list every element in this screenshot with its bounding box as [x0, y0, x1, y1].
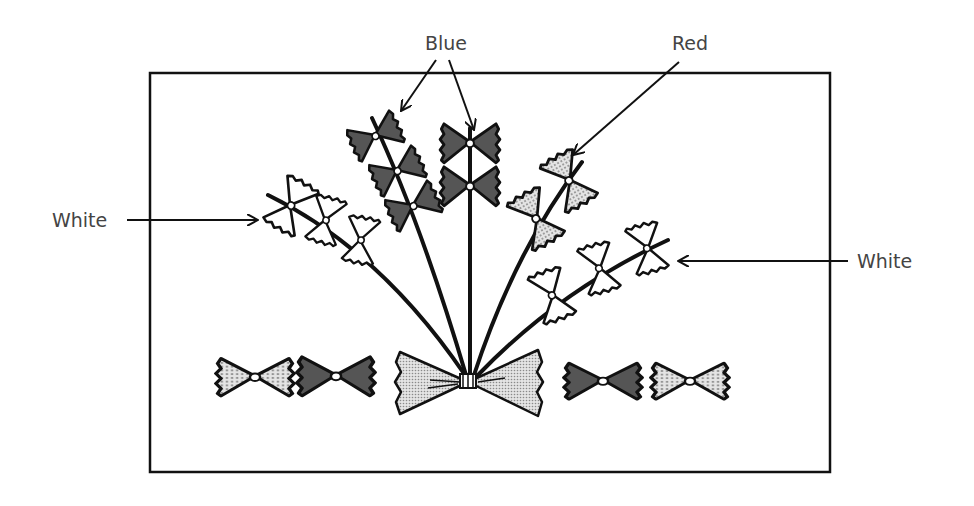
loose-bow-3 [564, 363, 642, 399]
blue-arrow-left [401, 60, 436, 111]
callout-arrows [127, 60, 848, 261]
blue-arrow-right [449, 60, 474, 130]
loose-bow-2 [297, 357, 375, 396]
pasta-bouquet-diagram: Blue Red White White [0, 0, 974, 506]
loose-bow-1 [216, 359, 294, 397]
label-white-right: White [857, 250, 912, 272]
label-red: Red [672, 32, 708, 54]
label-blue: Blue [425, 32, 467, 54]
red-arrow [573, 62, 679, 155]
loose-bow-4 [651, 363, 729, 399]
white-left-bows [262, 173, 381, 267]
label-white-left: White [52, 209, 107, 231]
red-bows [505, 146, 599, 253]
blue-left-bows [344, 109, 445, 233]
